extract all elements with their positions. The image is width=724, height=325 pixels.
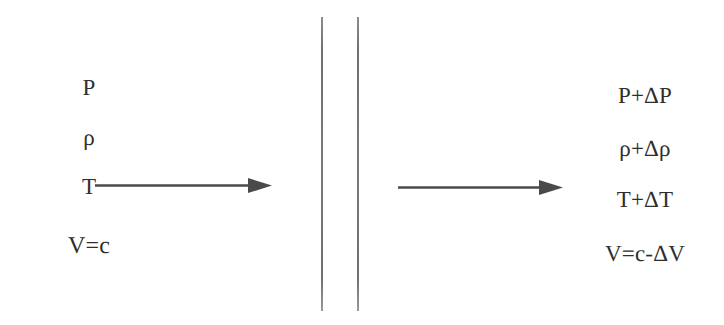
upstream-property-column: P ρ T V=c xyxy=(14,62,164,258)
wave-front-line-left xyxy=(321,17,323,311)
upstream-pressure-label: P xyxy=(83,76,96,99)
downstream-flow-arrow xyxy=(395,174,567,204)
downstream-velocity-label: V=c-ΔV xyxy=(605,242,685,265)
wave-front-line-right xyxy=(357,17,359,311)
downstream-pressure-label: P+ΔP xyxy=(618,84,672,107)
upstream-flow-arrow xyxy=(92,172,276,202)
diagram-canvas: P ρ T V=c P+ΔP ρ+Δρ T+ΔT V=c-ΔV xyxy=(0,0,724,325)
downstream-property-column: P+ΔP ρ+Δρ T+ΔT V=c-ΔV xyxy=(570,62,720,265)
downstream-density-label: ρ+Δρ xyxy=(619,137,671,160)
upstream-density-label: ρ xyxy=(83,126,95,149)
upstream-velocity-label: V=c xyxy=(68,234,110,258)
downstream-temperature-label: T+ΔT xyxy=(617,188,674,211)
